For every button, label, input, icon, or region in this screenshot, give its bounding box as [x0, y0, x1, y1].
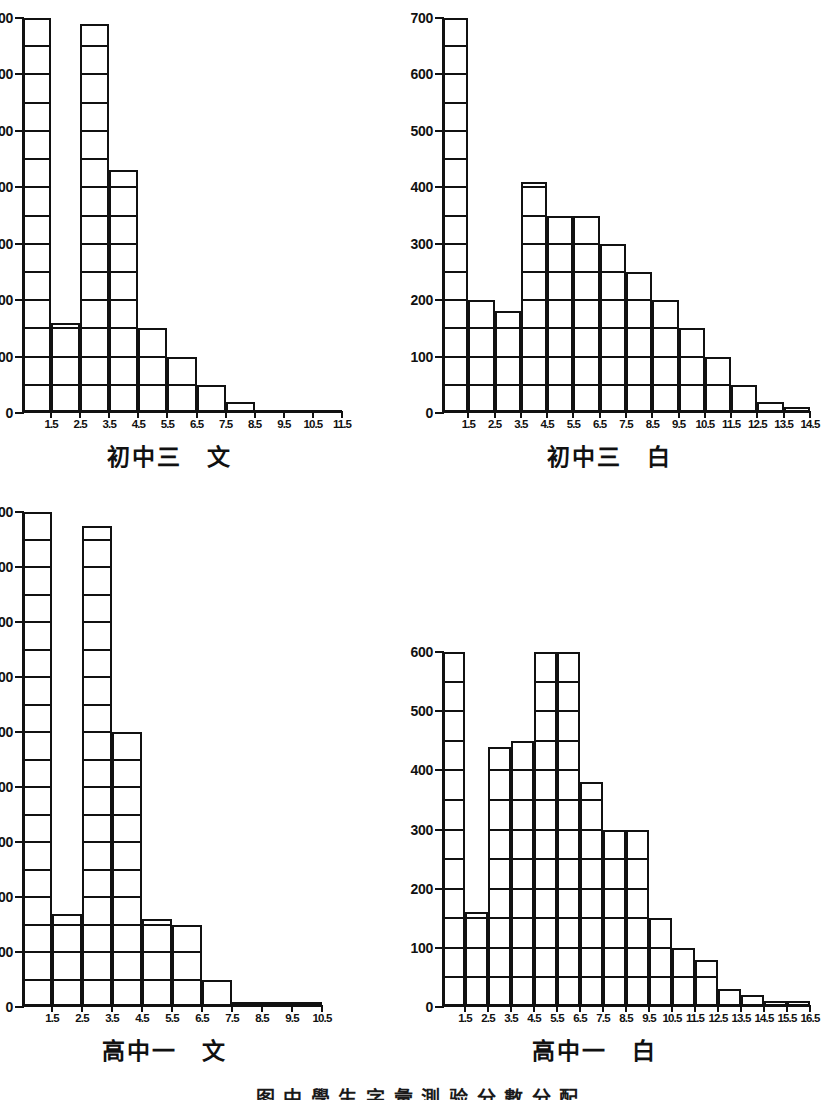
- bar-cell-divider: [605, 888, 624, 890]
- x-axis-label: 12.5: [709, 1012, 728, 1024]
- bar-cell-divider: [24, 215, 49, 217]
- x-axis-tick: [510, 1005, 512, 1012]
- y-axis-label: 0: [426, 405, 434, 421]
- y-axis-label: 600: [0, 66, 13, 82]
- x-axis-tick: [291, 1005, 293, 1012]
- histogram-bar: [787, 1001, 810, 1007]
- chart-caption: 高中一 文: [102, 1032, 227, 1066]
- histogram-bar: [547, 216, 573, 414]
- bar-cell-divider: [513, 769, 532, 771]
- bar-cell-divider: [575, 384, 597, 386]
- histogram-bar: [255, 410, 284, 413]
- y-axis-label: 200: [0, 292, 13, 308]
- bar-cell-divider: [84, 594, 110, 596]
- bar-cell-divider: [628, 299, 650, 301]
- plot-area: 01002003004005006001.52.53.54.55.56.57.5…: [442, 652, 810, 1007]
- bar-cell-divider: [24, 539, 50, 541]
- bar-cell-divider: [24, 45, 49, 47]
- bar-cell-divider: [470, 327, 492, 329]
- bar-cell-divider: [144, 951, 170, 953]
- histogram-bar: [202, 980, 232, 1008]
- bar-cell-divider: [523, 243, 545, 245]
- bar-cell-divider: [490, 799, 509, 801]
- bar-cell-divider: [24, 676, 50, 678]
- bar-cell-divider: [444, 186, 466, 188]
- histogram-bar: [292, 1002, 322, 1008]
- bar-cell-divider: [444, 740, 463, 742]
- histogram-bar: [495, 311, 521, 413]
- bar-cell-divider: [24, 759, 50, 761]
- bar-cell-divider: [549, 384, 571, 386]
- x-axis-label: 5.5: [567, 418, 580, 430]
- bar-cell-divider: [681, 356, 703, 358]
- bar-cell-divider: [24, 356, 49, 358]
- histogram-bar: [51, 323, 80, 413]
- bar-cell-divider: [54, 924, 80, 926]
- bar-cell-divider: [444, 710, 463, 712]
- plot-area: 01002003004005006007001.52.53.54.55.56.5…: [442, 18, 810, 413]
- bar-cell-divider: [444, 215, 466, 217]
- x-axis-tick: [51, 1005, 53, 1012]
- bar-cell-divider: [24, 102, 49, 104]
- bar-cell-divider: [651, 947, 670, 949]
- bar-cell-divider: [174, 979, 200, 981]
- bar-cell-divider: [490, 917, 509, 919]
- bar-cell-divider: [602, 327, 624, 329]
- histogram-bar: [142, 919, 172, 1007]
- y-axis-label: 400: [411, 762, 433, 778]
- histogram-bar: [442, 18, 468, 413]
- x-axis-label: 4.5: [540, 418, 553, 430]
- histogram-bar: [313, 410, 342, 413]
- histogram-bar: [262, 1002, 292, 1008]
- bar-cell-divider: [444, 243, 466, 245]
- bar-cell-divider: [523, 327, 545, 329]
- bar-cell-divider: [84, 786, 110, 788]
- histogram-bar: [764, 1001, 787, 1007]
- x-axis-tick: [171, 1005, 173, 1012]
- bar-cell-divider: [82, 130, 107, 132]
- x-axis-tick: [556, 1005, 558, 1012]
- bar-cell-divider: [559, 829, 578, 831]
- bar-cell-divider: [111, 271, 136, 273]
- bar-cell-divider: [628, 947, 647, 949]
- y-axis-label: 100: [411, 348, 433, 364]
- x-axis-tick: [231, 1005, 233, 1012]
- bar-cell-divider: [536, 947, 555, 949]
- bar-cell-divider: [523, 384, 545, 386]
- bar-cell-divider: [53, 356, 78, 358]
- bar-cell-divider: [114, 814, 140, 816]
- bar-cell-divider: [490, 947, 509, 949]
- bar-cell-divider: [582, 976, 601, 978]
- bar-cell-divider: [24, 271, 49, 273]
- y-axis-label: 400: [411, 179, 433, 195]
- bar-cell-divider: [654, 384, 676, 386]
- histogram-bar: [167, 357, 196, 413]
- bar-cell-divider: [84, 704, 110, 706]
- x-axis-label: 7.5: [596, 1012, 609, 1024]
- y-axis-label: 500: [0, 724, 13, 740]
- x-axis-label: 2.5: [75, 1012, 88, 1024]
- histogram-bar: [172, 925, 202, 1008]
- x-axis-tick: [625, 411, 627, 418]
- bar-cell-divider: [84, 924, 110, 926]
- y-axis-label: 300: [0, 235, 13, 251]
- bar-cell-divider: [84, 539, 110, 541]
- x-axis-label: 13.5: [774, 418, 793, 430]
- bar-cell-divider: [582, 829, 601, 831]
- bar-cell-divider: [84, 951, 110, 953]
- y-axis-label: 300: [411, 821, 433, 837]
- bar-cell-divider: [24, 896, 50, 898]
- x-axis-tick: [651, 411, 653, 418]
- bar-cell-divider: [536, 829, 555, 831]
- y-axis-label: 400: [0, 779, 13, 795]
- x-axis-tick: [50, 411, 52, 418]
- x-axis-tick: [487, 1005, 489, 1012]
- bar-cell-divider: [628, 976, 647, 978]
- histogram-bar: [672, 948, 695, 1007]
- bar-cell-divider: [54, 979, 80, 981]
- bar-cell-divider: [605, 858, 624, 860]
- bar-cell-divider: [513, 829, 532, 831]
- bar-cell-divider: [444, 327, 466, 329]
- bar-cell-divider: [24, 869, 50, 871]
- x-axis-tick: [740, 1005, 742, 1012]
